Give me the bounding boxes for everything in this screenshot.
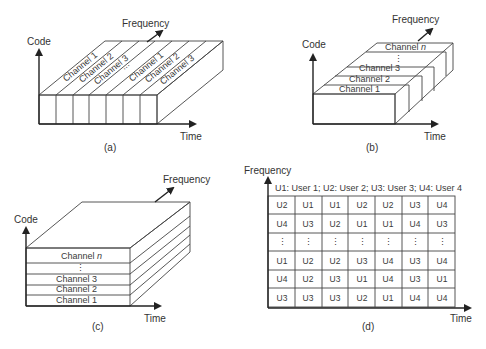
- grid-row: U4 U2 U3 U1 U4 U3 U1: [277, 274, 448, 284]
- grid-cell: ⋮: [384, 237, 393, 247]
- code-axis-label: Code: [27, 36, 51, 47]
- grid-cell: U4: [410, 293, 421, 303]
- frequency-axis-label: Frequency: [122, 18, 169, 29]
- grid-cell: U3: [410, 274, 421, 284]
- frequency-axis-label: Frequency: [163, 174, 210, 185]
- grid-cell: ⋮: [278, 237, 287, 247]
- top-face: [26, 202, 190, 248]
- grid-cell: ⋮: [304, 237, 313, 247]
- grid-cell: U3: [437, 219, 448, 229]
- grid-cell: U2: [357, 293, 368, 303]
- frequency-axis: [155, 188, 173, 202]
- grid-cell: U2: [303, 274, 314, 284]
- grid-cell: U3: [303, 293, 314, 303]
- channel-label: Channel 3: [359, 63, 400, 73]
- grid-row-ellipsis: ⋮ ⋮ ⋮ ⋮ ⋮ ⋮ ⋮: [278, 237, 447, 247]
- ellipsis: ⋮: [76, 263, 85, 273]
- grid-cell: U3: [410, 200, 421, 210]
- code-axis-label: Code: [14, 214, 38, 225]
- panel-caption: (a): [104, 142, 116, 153]
- grid-cell: U4: [383, 274, 394, 284]
- grid-cell: U2: [383, 200, 394, 210]
- panel-b: Channel 1 Channel 2 Channel 3 ⋮ Channel …: [302, 14, 453, 153]
- channel-label: Channel 2: [56, 284, 97, 294]
- panel-caption: (c): [92, 321, 104, 332]
- right-face: [395, 43, 453, 124]
- time-axis-label: Time: [424, 131, 446, 142]
- grid-row: U4 U3 U2 U1 U1 U4 U3: [277, 219, 448, 229]
- channel-label: Channel 1: [56, 295, 97, 305]
- grid-row: U2 U1 U1 U2 U2 U3 U4: [277, 200, 448, 210]
- front-face: [39, 95, 157, 124]
- grid-cell: U3: [303, 219, 314, 229]
- grid-cell: U2: [277, 200, 288, 210]
- grid-cell: U1: [383, 219, 394, 229]
- grid-cell: ⋮: [358, 237, 367, 247]
- grid-cell: U3: [330, 293, 341, 303]
- user-legend: U1: User 1; U2: User 2; U3: User 3; U4: …: [275, 183, 462, 193]
- grid-cell: U4: [410, 219, 421, 229]
- panel-a: Channel 1 Channel 2 Channel 3 ... Channe…: [27, 18, 223, 153]
- grid-cell: U3: [277, 293, 288, 303]
- frequency-axis-label: Frequency: [392, 14, 439, 25]
- frequency-axis: [147, 31, 162, 42]
- panel-d: Frequency U1: User 1; U2: User 2; U3: Us…: [244, 165, 472, 332]
- grid-cell: U4: [277, 219, 288, 229]
- time-axis-label: Time: [144, 313, 166, 324]
- grid-cell: U4: [437, 200, 448, 210]
- grid-cell: ⋮: [411, 237, 420, 247]
- channel-label-n: Channel n: [61, 251, 102, 261]
- grid-cell: U2: [330, 256, 341, 266]
- right-face: [130, 202, 190, 306]
- grid-cell: U1: [330, 200, 341, 210]
- grid-cell: U1: [437, 274, 448, 284]
- time-slot-dividers: [56, 95, 140, 124]
- channel-label: Channel 3: [56, 274, 97, 284]
- frequency-axis: [418, 29, 432, 41]
- grid-cell: U4: [383, 256, 394, 266]
- panel-caption: (d): [362, 321, 374, 332]
- grid-cell: U1: [303, 200, 314, 210]
- frequency-axis-label: Frequency: [244, 165, 291, 176]
- grid-cell: U3: [330, 274, 341, 284]
- panel-caption: (b): [366, 142, 378, 153]
- front-face: [313, 94, 395, 124]
- grid-cell: U1: [357, 219, 368, 229]
- grid-row: U1 U2 U2 U3 U4 U3 U4: [277, 256, 448, 266]
- grid-row: U3 U3 U3 U2 U1 U4 U4: [277, 293, 448, 303]
- grid-cell: U3: [357, 256, 368, 266]
- grid-cell: U4: [277, 274, 288, 284]
- grid-cell: U2: [303, 256, 314, 266]
- ellipsis: ⋮: [394, 54, 403, 64]
- grid-cell: U4: [437, 293, 448, 303]
- grid-cell: U1: [383, 293, 394, 303]
- grid-cell: ⋮: [331, 237, 340, 247]
- grid-cell: ⋮: [438, 237, 447, 247]
- grid-cell: U3: [410, 256, 421, 266]
- grid-cell: U2: [357, 200, 368, 210]
- channel-label: Channel 1: [339, 84, 380, 94]
- channel-label: Channel 2: [349, 74, 390, 84]
- grid-cell: U1: [277, 256, 288, 266]
- time-axis-label: Time: [450, 313, 472, 324]
- time-frequency-grid: [268, 196, 455, 307]
- channel-label-n: Channel n: [385, 42, 426, 52]
- grid-cell: U4: [437, 256, 448, 266]
- panel-c: Channel 1 Channel 2 Channel 3 ⋮ Channel …: [14, 174, 210, 332]
- code-axis-label: Code: [302, 39, 326, 50]
- time-axis-label: Time: [180, 131, 202, 142]
- multiple-access-diagram: Channel 1 Channel 2 Channel 3 ... Channe…: [0, 0, 486, 349]
- grid-cell: U1: [357, 274, 368, 284]
- grid-cell: U2: [330, 219, 341, 229]
